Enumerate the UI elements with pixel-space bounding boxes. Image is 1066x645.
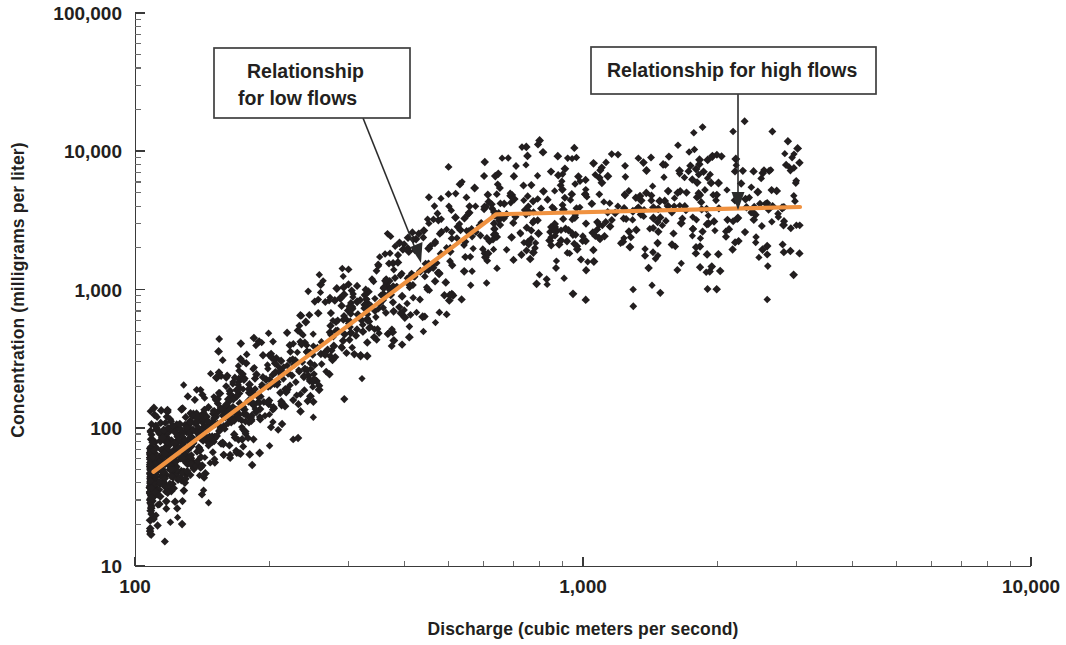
data-point: [215, 335, 223, 343]
data-point: [614, 151, 622, 159]
data-point: [406, 323, 414, 331]
data-point: [780, 248, 788, 256]
data-point: [714, 250, 723, 259]
data-point: [795, 159, 804, 168]
data-point: [205, 499, 212, 506]
data-point: [269, 338, 277, 346]
data-point: [600, 198, 607, 205]
data-point: [161, 538, 169, 546]
data-point: [588, 199, 597, 208]
data-point: [167, 518, 175, 526]
data-point: [731, 155, 740, 164]
y-axis-title: Concentration (milligrams per liter): [8, 142, 28, 437]
data-point: [250, 435, 258, 443]
data-point: [314, 309, 323, 318]
data-point: [171, 497, 180, 506]
data-point: [539, 148, 548, 157]
data-point: [553, 152, 562, 161]
data-point: [577, 255, 585, 263]
data-point: [490, 246, 497, 253]
data-point: [764, 262, 772, 270]
data-point: [425, 193, 433, 201]
data-point: [784, 137, 792, 145]
y-tick-label: 1,000: [74, 280, 122, 301]
y-tick-label: 10: [101, 556, 122, 577]
data-point: [180, 486, 189, 495]
data-point: [764, 296, 772, 304]
data-point: [649, 183, 656, 190]
data-point: [689, 232, 696, 239]
data-point: [701, 186, 709, 194]
data-point: [656, 289, 664, 297]
data-point: [286, 348, 294, 356]
data-point: [259, 351, 267, 359]
data-point: [340, 395, 348, 403]
data-point: [420, 328, 427, 336]
data-point: [345, 266, 353, 274]
data-point: [698, 227, 706, 235]
data-point: [544, 196, 552, 204]
data-point: [629, 286, 637, 294]
y-tick-label: 100,000: [53, 3, 122, 24]
data-point: [570, 144, 578, 152]
data-point: [629, 302, 637, 310]
data-point: [463, 194, 471, 202]
data-point: [339, 265, 347, 273]
data-point: [503, 246, 511, 254]
data-point: [674, 141, 682, 149]
data-point: [458, 295, 466, 303]
data-point: [705, 212, 712, 219]
data-point: [641, 252, 649, 260]
data-point: [372, 313, 380, 321]
data-point: [184, 392, 192, 400]
data-point: [207, 370, 214, 377]
data-point: [316, 271, 323, 278]
data-point: [389, 298, 397, 306]
data-point: [547, 167, 555, 175]
data-point: [632, 225, 641, 234]
data-point: [465, 202, 473, 210]
low-flow-leader-line: [363, 118, 415, 248]
data-point: [173, 504, 181, 512]
data-point: [332, 284, 341, 293]
data-point: [682, 188, 690, 196]
data-point: [758, 222, 766, 230]
data-point: [781, 150, 788, 157]
data-point: [483, 279, 491, 287]
x-tick-label: 100: [119, 576, 151, 597]
data-point: [791, 197, 799, 205]
data-point: [398, 292, 407, 301]
data-point: [534, 229, 543, 238]
data-point: [403, 300, 410, 307]
x-tick-label: 1,000: [559, 576, 607, 597]
data-point: [441, 278, 450, 287]
data-point: [405, 333, 414, 342]
data-point: [340, 273, 347, 280]
data-point: [711, 227, 718, 234]
data-point: [445, 190, 453, 198]
data-point: [786, 247, 795, 256]
data-point: [255, 449, 264, 458]
data-point: [722, 233, 730, 241]
data-point: [266, 442, 274, 450]
data-point: [595, 190, 603, 198]
data-point: [689, 225, 696, 232]
data-point: [536, 271, 543, 278]
data-point: [641, 245, 649, 253]
data-point: [622, 173, 630, 181]
data-point: [629, 216, 636, 224]
data-point: [728, 245, 736, 253]
data-point: [245, 450, 254, 459]
data-point: [606, 200, 614, 208]
data-point: [589, 246, 597, 254]
data-point: [582, 296, 591, 305]
data-point: [660, 174, 667, 181]
data-point: [178, 497, 186, 505]
data-point: [317, 289, 324, 296]
data-point: [310, 330, 317, 337]
data-point: [755, 254, 762, 261]
data-point: [484, 191, 493, 200]
data-point: [512, 162, 520, 170]
data-point: [723, 186, 730, 193]
data-point: [248, 461, 257, 470]
